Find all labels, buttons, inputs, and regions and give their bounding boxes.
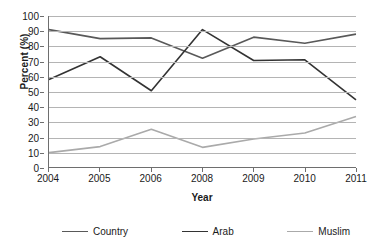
legend-swatch-muslim <box>287 231 313 232</box>
legend-label: Country <box>93 226 128 237</box>
x-tick-mark <box>48 168 49 172</box>
y-axis-tick-labels: 1009080706050403020100 <box>0 16 44 168</box>
x-axis-title: Year <box>48 192 356 203</box>
gridline <box>49 153 356 154</box>
y-tick-mark <box>40 122 44 123</box>
y-tick-label: 20 <box>28 132 39 143</box>
x-axis-tick-marks <box>48 168 356 172</box>
gridline <box>49 107 356 108</box>
gridline <box>49 31 356 32</box>
series-line-arab <box>49 30 356 100</box>
y-tick-label: 60 <box>28 71 39 82</box>
x-tick-mark <box>305 168 306 172</box>
y-tick-mark <box>40 31 44 32</box>
legend-swatch-country <box>62 231 88 232</box>
y-tick-label: 0 <box>33 163 39 174</box>
x-tick-label: 2009 <box>242 173 264 184</box>
y-tick-mark <box>40 153 44 154</box>
y-tick-label: 40 <box>28 102 39 113</box>
gridline <box>49 122 356 123</box>
x-tick-label: 2010 <box>294 173 316 184</box>
legend-label: Muslim <box>318 226 350 237</box>
legend-item-country[interactable]: Country <box>62 226 128 237</box>
y-tick-mark <box>40 16 44 17</box>
y-tick-mark <box>40 46 44 47</box>
legend-item-arab[interactable]: Arab <box>182 226 234 237</box>
x-tick-mark <box>253 168 254 172</box>
x-tick-mark <box>202 168 203 172</box>
x-tick-mark <box>356 168 357 172</box>
y-tick-mark <box>40 77 44 78</box>
y-tick-label: 30 <box>28 117 39 128</box>
gridline <box>49 138 356 139</box>
x-tick-mark <box>151 168 152 172</box>
x-tick-label: 2004 <box>37 173 59 184</box>
y-tick-mark <box>40 107 44 108</box>
y-tick-mark <box>40 138 44 139</box>
legend-swatch-arab <box>182 231 208 232</box>
x-tick-label: 2011 <box>345 173 367 184</box>
x-tick-mark <box>99 168 100 172</box>
x-tick-label: 2008 <box>191 173 213 184</box>
y-tick-label: 50 <box>28 87 39 98</box>
gridline <box>49 46 356 47</box>
chart-legend: CountryArabMuslim <box>48 222 356 240</box>
y-tick-label: 80 <box>28 41 39 52</box>
y-tick-mark <box>40 168 44 169</box>
y-tick-label: 90 <box>28 26 39 37</box>
gridline <box>49 92 356 93</box>
legend-item-muslim[interactable]: Muslim <box>287 226 350 237</box>
series-line-country <box>49 30 356 59</box>
legend-label: Arab <box>213 226 234 237</box>
y-tick-label: 10 <box>28 147 39 158</box>
x-axis-tick-labels: 2004200520062008200920102011 <box>48 173 356 187</box>
plot-area <box>48 16 356 168</box>
y-tick-label: 70 <box>28 56 39 67</box>
gridline <box>49 16 356 17</box>
y-tick-mark <box>40 62 44 63</box>
gridline <box>49 62 356 63</box>
y-tick-mark <box>40 92 44 93</box>
y-tick-label: 100 <box>22 11 39 22</box>
x-tick-label: 2006 <box>140 173 162 184</box>
gridline <box>49 77 356 78</box>
x-tick-label: 2005 <box>88 173 110 184</box>
